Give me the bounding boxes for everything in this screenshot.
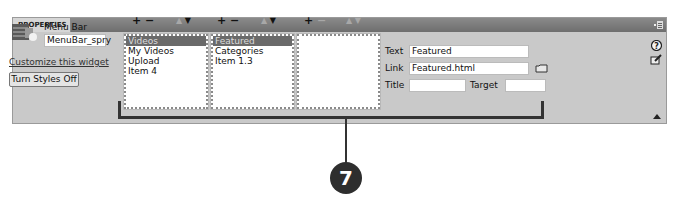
turn-styles-off-button[interactable]: Turn Styles Off [9,72,79,87]
svg-text:?: ? [654,42,659,51]
title-label: Title [385,80,404,90]
list-1-add-button[interactable]: + [132,16,141,26]
list-item[interactable]: Upload [126,56,206,66]
list-1-menu-items[interactable]: Videos My Videos Upload Item 4 [124,34,208,109]
callout-line [345,119,347,165]
list-item[interactable]: Categories [213,46,292,56]
title-field[interactable] [409,79,466,92]
text-field[interactable]: Featured [409,45,529,58]
widget-id-field[interactable]: MenuBar_spry [44,34,106,47]
edit-icon[interactable] [650,54,662,65]
menu-bar-widget-icon [12,24,38,42]
link-label: Link [385,63,403,73]
callout-number-badge: 7 [330,162,362,194]
list-2-menu-items[interactable]: Featured Categories Item 1.3 [211,34,294,109]
panel-options-icon[interactable] [654,21,663,29]
list-3-menu-items[interactable] [297,34,380,109]
target-label: Target [470,80,498,90]
widget-type-label: Menu Bar [44,22,87,32]
list-3-move-down-button[interactable]: ▼ [355,16,361,25]
list-1-move-up-button[interactable]: ▲ [176,16,182,25]
panel-titlebar: PROPERTIES [13,18,666,32]
list-3-edit-controls: + − [304,16,326,26]
list-3-add-button[interactable]: + [304,16,313,26]
list-2-remove-button[interactable]: − [230,16,239,26]
list-2-move-down-button[interactable]: ▼ [270,16,276,25]
list-item[interactable]: Featured [213,36,292,46]
list-2-move-controls: ▲ ▼ [261,17,276,25]
target-field[interactable] [505,79,546,92]
list-2-edit-controls: + − [217,16,239,26]
list-1-move-controls: ▲ ▼ [176,17,191,25]
list-2-add-button[interactable]: + [217,16,226,26]
list-1-move-down-button[interactable]: ▼ [185,16,191,25]
help-icon[interactable]: ? [651,40,662,51]
list-3-remove-button[interactable]: − [317,16,326,26]
folder-icon[interactable] [535,64,548,73]
list-item[interactable]: Item 4 [126,66,206,76]
list-item[interactable]: My Videos [126,46,206,56]
collapse-arrow-icon[interactable] [653,114,661,119]
link-field[interactable]: Featured.html [409,62,529,75]
list-2-move-up-button[interactable]: ▲ [261,16,267,25]
list-1-remove-button[interactable]: − [145,16,154,26]
list-3-move-controls: ▲ ▼ [346,17,361,25]
customize-widget-link[interactable]: Customize this widget [9,57,109,67]
text-label: Text [385,46,403,56]
list-item[interactable]: Videos [126,36,206,46]
list-1-edit-controls: + − [132,16,154,26]
list-3-move-up-button[interactable]: ▲ [346,16,352,25]
list-item[interactable]: Item 1.3 [213,56,292,66]
callout-bracket [118,101,544,119]
